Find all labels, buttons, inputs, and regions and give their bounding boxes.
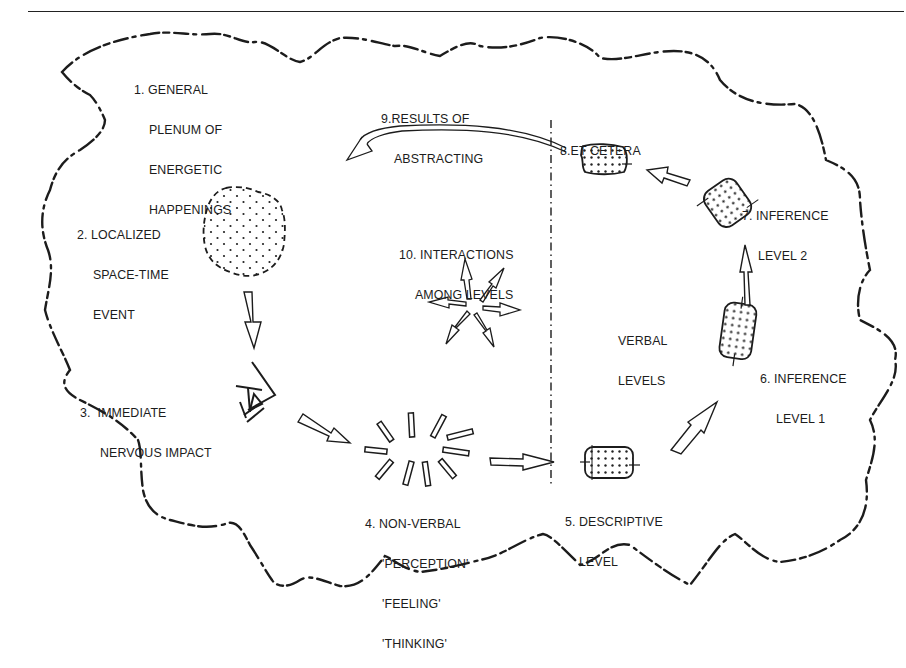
- eye-icon: [236, 362, 275, 422]
- label-localized-event: 2. LOCALIZED SPACE-TIME EVENT: [77, 202, 169, 336]
- label-immediate-nervous-impact: 3. IMMEDIATE NERVOUS IMPACT: [80, 380, 212, 474]
- arrow-nonverbal-to-descriptive: [490, 454, 554, 470]
- label-descriptive-level: 5. DESCRIPTIVE LEVEL: [565, 489, 663, 583]
- label-interactions-among-levels: 10. INTERACTIONS AMONG LEVELS: [399, 222, 514, 316]
- nonverbal-radiating-bars: [365, 413, 474, 486]
- label-non-verbal: 4. NON-VERBAL 'PERCEPTION' 'FEELING' 'TH…: [365, 491, 468, 665]
- inference-level-1-tag: [717, 295, 758, 369]
- label-verbal-levels: VERBAL LEVELS: [618, 308, 668, 402]
- arrow-descriptive-to-inference1: [671, 402, 717, 454]
- label-et-cetera: 8.ET CETERA: [560, 118, 641, 172]
- arrow-inference2-to-etcetera: [647, 167, 690, 186]
- label-inference-level-1: 6. INFERENCE LEVEL 1: [760, 346, 847, 440]
- arrow-impact-to-nonverbal: [298, 414, 350, 443]
- descriptive-level-tag: [580, 445, 640, 480]
- label-inference-level-2: 7. INFERENCE LEVEL 2: [742, 183, 829, 277]
- arrow-event-to-impact: [244, 292, 261, 348]
- label-results-of-abstracting: 9.RESULTS OF ABSTRACTING: [381, 86, 483, 180]
